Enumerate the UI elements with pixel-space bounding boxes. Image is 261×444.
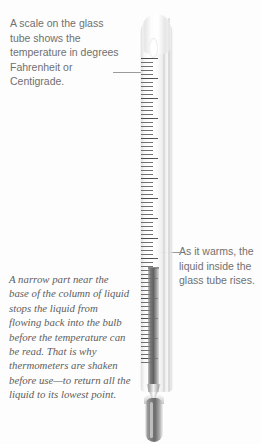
glass-edge-shadow: [168, 18, 170, 392]
thermometer-diagram-page: A scale on the glass tube shows the temp…: [0, 0, 261, 444]
liquid-bulb: [145, 398, 163, 442]
glass-highlight-right: [163, 18, 165, 392]
callout-scale-text: A scale on the glass tube shows the temp…: [10, 16, 122, 89]
neck-air-space: [149, 38, 158, 58]
bulb-highlight: [150, 402, 153, 438]
callout-warming-text: As it warms, the liquid inside the glass…: [179, 244, 259, 288]
callout-constriction-text: A narrow part near the base of the colum…: [9, 272, 131, 402]
liquid-column: [148, 268, 159, 392]
thermometer-illustration: [134, 12, 180, 437]
